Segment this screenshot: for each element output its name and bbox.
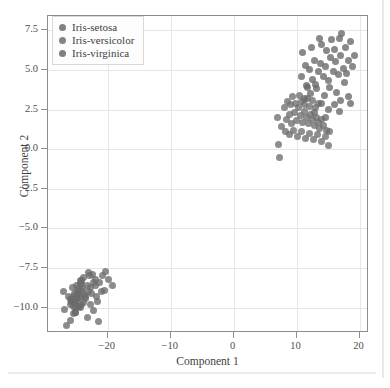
data-point	[63, 322, 70, 329]
data-point	[77, 277, 84, 284]
y-tick-label: 7.5	[25, 24, 38, 35]
y-tick-label: 5.0	[25, 64, 38, 75]
data-point	[96, 279, 103, 286]
scatter-plot-figure: −10.0−7.5−5.0−2.50.02.55.07.5 −20−100102…	[0, 0, 390, 388]
gridline-vertical	[171, 16, 172, 331]
data-point	[93, 293, 100, 300]
data-point	[73, 296, 80, 303]
data-point	[90, 307, 97, 314]
legend-marker-icon	[59, 37, 66, 44]
legend-marker-icon	[59, 24, 66, 31]
x-tick-mark	[233, 332, 234, 338]
gridline-horizontal	[48, 110, 367, 111]
data-point	[336, 108, 343, 115]
page-edge-right	[382, 0, 384, 378]
data-point	[274, 114, 281, 121]
data-point	[326, 128, 333, 135]
x-tick-mark	[296, 332, 297, 338]
legend-item-setosa[interactable]: Iris-setosa	[59, 21, 134, 34]
legend[interactable]: Iris-setosa Iris-versicolor Iris-virgini…	[52, 16, 144, 65]
data-point	[318, 100, 325, 107]
data-point	[308, 44, 315, 51]
data-point	[316, 35, 323, 42]
x-tick-label: −20	[77, 341, 137, 352]
data-point	[109, 282, 116, 289]
data-point	[61, 306, 68, 313]
legend-item-versicolor[interactable]: Iris-versicolor	[59, 34, 134, 47]
gridline-vertical	[360, 16, 361, 331]
data-point	[95, 318, 102, 325]
data-point	[276, 154, 283, 161]
data-point	[343, 70, 350, 77]
x-tick-mark	[359, 332, 360, 338]
data-point	[299, 49, 306, 56]
gridline-horizontal	[48, 228, 367, 229]
data-point	[90, 279, 97, 286]
data-point	[347, 38, 354, 45]
x-tick-mark	[170, 332, 171, 338]
data-point	[341, 79, 348, 86]
x-tick-label: 0	[203, 341, 263, 352]
data-point	[342, 44, 349, 51]
data-point	[332, 58, 339, 65]
data-point	[337, 97, 344, 104]
data-point	[335, 71, 342, 78]
x-axis-label: Component 1	[47, 355, 368, 367]
data-point	[321, 92, 328, 99]
x-tick-label: 10	[266, 341, 326, 352]
data-point	[349, 63, 356, 70]
data-point	[331, 46, 338, 53]
gridline-horizontal	[48, 268, 367, 269]
data-point	[82, 295, 89, 302]
x-tick-mark	[107, 332, 108, 338]
data-point	[306, 66, 313, 73]
legend-label: Iris-versicolor	[72, 35, 134, 46]
y-tick-label: −10.0	[14, 302, 38, 313]
data-point	[298, 128, 305, 135]
data-point	[311, 109, 318, 116]
gridline-vertical	[297, 16, 298, 331]
data-point	[347, 100, 354, 107]
y-axis-label: Component 2	[18, 96, 30, 236]
data-point	[101, 287, 108, 294]
data-point	[325, 106, 332, 113]
data-point	[298, 73, 305, 80]
data-point	[322, 114, 329, 121]
data-point	[84, 314, 91, 321]
y-tick-label: −7.5	[19, 262, 38, 273]
gridline-horizontal	[48, 149, 367, 150]
legend-label: Iris-setosa	[72, 22, 117, 33]
legend-label: Iris-virginica	[72, 48, 129, 59]
x-tick-label: −10	[140, 341, 200, 352]
data-point	[313, 85, 320, 92]
data-point	[275, 141, 282, 148]
page-edge-bottom	[8, 372, 376, 374]
data-point	[78, 287, 85, 294]
gridline-vertical	[234, 16, 235, 331]
data-point	[333, 89, 340, 96]
legend-marker-icon	[59, 50, 66, 57]
gridline-horizontal	[48, 189, 367, 190]
data-point	[301, 95, 308, 102]
data-point	[328, 36, 335, 43]
data-point	[85, 269, 92, 276]
data-point	[337, 52, 344, 59]
x-tick-label: 20	[329, 341, 389, 352]
data-point	[338, 30, 345, 37]
data-point	[351, 52, 358, 59]
data-point	[326, 84, 333, 91]
legend-item-virginica[interactable]: Iris-virginica	[59, 47, 134, 60]
